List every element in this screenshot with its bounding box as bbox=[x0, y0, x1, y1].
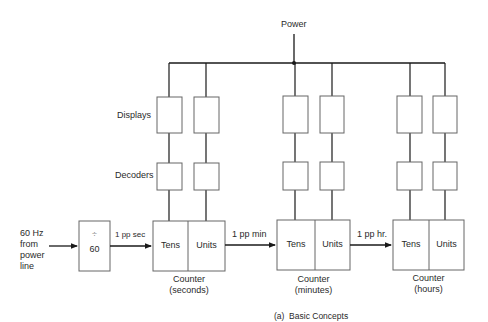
decoder-boxes bbox=[157, 162, 457, 190]
counter-seconds-title: Counter bbox=[153, 274, 225, 285]
counter-hours-tens: Tens bbox=[393, 239, 429, 250]
input-label-line2: from bbox=[20, 239, 45, 250]
vertical-wires bbox=[169, 63, 445, 221]
display-box-sec-tens bbox=[157, 97, 182, 133]
display-box-hr-units bbox=[433, 96, 457, 133]
signal-min-label: 1 pp min bbox=[232, 229, 267, 240]
counter-seconds-tens: Tens bbox=[153, 240, 188, 251]
display-box-min-tens bbox=[283, 96, 308, 133]
display-boxes bbox=[157, 96, 457, 133]
display-box-min-units bbox=[320, 96, 344, 133]
displays-label: Displays bbox=[117, 110, 151, 121]
counter-hours-title: Counter bbox=[393, 273, 464, 284]
signal-sec-label: 1 pp sec bbox=[115, 229, 145, 240]
input-label-line1: 60 Hz bbox=[20, 228, 45, 239]
input-label-line4: line bbox=[20, 261, 45, 272]
decoder-box-sec-tens bbox=[157, 163, 182, 190]
figure-caption: (a) Basic Concepts bbox=[274, 311, 348, 322]
input-label: 60 Hz from power line bbox=[20, 228, 45, 272]
display-box-hr-tens bbox=[397, 96, 422, 133]
input-label-line3: power bbox=[20, 250, 45, 261]
decoder-box-min-units bbox=[320, 162, 344, 190]
signal-hr-label: 1 pp hr. bbox=[357, 229, 387, 240]
counter-minutes-subtitle: (minutes) bbox=[277, 285, 350, 296]
counter-minutes-tens: Tens bbox=[277, 239, 315, 250]
decoder-box-min-tens bbox=[283, 162, 308, 190]
display-box-sec-units bbox=[194, 97, 219, 133]
counter-hours-units: Units bbox=[429, 239, 464, 250]
decoders-label: Decoders bbox=[115, 170, 154, 181]
counter-minutes-units: Units bbox=[315, 239, 350, 250]
counter-seconds-units: Units bbox=[188, 240, 225, 251]
divide-value: 60 bbox=[79, 244, 110, 255]
decoder-box-sec-units bbox=[194, 163, 219, 190]
divide-symbol: ÷ bbox=[79, 229, 110, 240]
decoder-box-hr-tens bbox=[397, 162, 422, 190]
counter-minutes-title: Counter bbox=[277, 274, 350, 285]
counter-seconds-subtitle: (seconds) bbox=[153, 285, 225, 296]
counter-hours-subtitle: (hours) bbox=[393, 284, 464, 295]
power-label: Power bbox=[281, 19, 307, 30]
decoder-box-hr-units bbox=[433, 162, 457, 190]
